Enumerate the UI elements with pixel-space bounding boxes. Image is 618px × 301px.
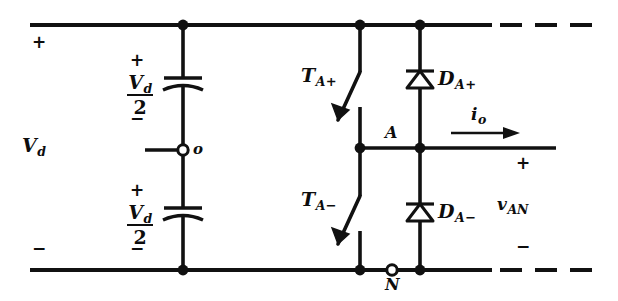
top-capacitor-fraction-numerator: Vd: [117, 73, 163, 93]
junction-dot-icon-switch-top: [355, 20, 366, 31]
junction-dot-icon-diode-top: [415, 20, 426, 31]
open-terminal-icon-o: [178, 145, 188, 155]
circuit-diagram-figure: + − Vd + Vd 2 − o + Vd 2 − TA+ DA+ A io …: [0, 0, 618, 301]
lower-diode-subscript: A: [455, 210, 465, 225]
junction-dot-icon-switch-bottom: [355, 265, 366, 276]
lower-switch-label: TA−: [301, 190, 336, 209]
output-current-label: io: [471, 106, 486, 123]
switch-icon-lower-arrowhead: [332, 228, 349, 244]
upper-switch-sign: +: [326, 74, 337, 89]
source-voltage-label: Vd: [22, 136, 46, 155]
upper-switch-subscript: A: [316, 74, 326, 89]
upper-diode-branch: [406, 20, 434, 148]
source-voltage-symbol: V: [22, 134, 37, 156]
output-voltage-subscript: AN: [507, 202, 528, 217]
bottom-cap-numerator-symbol: V: [128, 201, 143, 223]
output-voltage-symbol: v: [497, 194, 507, 214]
output-plus-sign: +: [516, 155, 530, 172]
output-current-subscript: o: [478, 112, 486, 127]
upper-diode-symbol: D: [438, 67, 454, 89]
upper-diode-label: DA+: [438, 69, 475, 88]
pole-node-label: A: [385, 125, 397, 141]
current-arrow-icon-io: [451, 127, 520, 139]
output-pole-line: [355, 143, 556, 154]
lower-switch-subscript: A: [316, 198, 326, 213]
midpoint-terminal-label: o: [193, 142, 203, 157]
lower-switch-branch: [332, 148, 365, 275]
bottom-capacitor-fraction-numerator: Vd: [117, 203, 163, 223]
bottom-capacitor-minus-sign: −: [130, 240, 144, 257]
top-capacitor-plus-sign: +: [130, 52, 144, 69]
switch-icon-upper-arrowhead: [332, 104, 349, 120]
bottom-cap-numerator-subscript: d: [144, 211, 153, 226]
diode-icon-upper-triangle: [407, 71, 433, 88]
dc-bus-minus-sign: −: [32, 240, 46, 257]
output-current-symbol: i: [471, 104, 477, 124]
bottom-capacitor-plus-sign: +: [130, 182, 144, 199]
junction-dot-icon-cap-bottom: [178, 265, 189, 276]
neutral-terminal-label: N: [385, 277, 400, 293]
top-cap-numerator-subscript: d: [144, 81, 153, 96]
upper-diode-subscript: A: [455, 77, 465, 92]
source-voltage-subscript: d: [37, 144, 46, 159]
upper-switch-label: TA+: [301, 66, 336, 85]
open-terminal-icon-N: [387, 265, 397, 275]
junction-dot-icon-diode-bottom: [415, 265, 426, 276]
junction-dot-icon-cap-top: [178, 20, 189, 31]
upper-switch-branch: [332, 20, 365, 148]
output-voltage-label: vAN: [497, 196, 528, 213]
lower-diode-label: DA−: [438, 202, 475, 221]
lower-diode-sign: −: [465, 210, 476, 225]
top-capacitor-minus-sign: −: [130, 110, 144, 127]
diode-icon-lower-triangle: [407, 204, 433, 221]
upper-diode-sign: +: [465, 77, 476, 92]
current-arrow-head: [503, 127, 520, 139]
lower-diode-symbol: D: [438, 200, 454, 222]
lower-diode-branch: [406, 148, 434, 275]
lower-switch-symbol: T: [301, 188, 315, 210]
dc-bus-plus-sign: +: [32, 34, 46, 51]
lower-switch-sign: −: [326, 198, 337, 213]
top-cap-numerator-symbol: V: [128, 71, 143, 93]
upper-switch-symbol: T: [301, 64, 315, 86]
output-minus-sign: −: [516, 238, 530, 255]
